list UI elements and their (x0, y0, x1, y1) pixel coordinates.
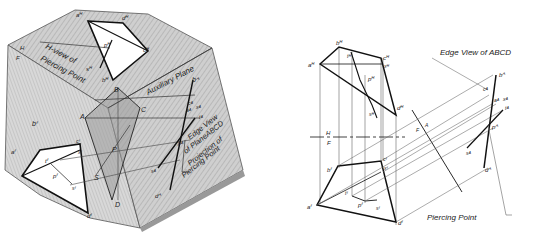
label-cA: cᴬ (188, 100, 194, 106)
label-sA: sᴬ (466, 150, 472, 156)
label-dA: dᴬ (485, 166, 491, 173)
label-dF: dᶠ (87, 213, 92, 219)
label-tA: tᴬ (199, 114, 203, 120)
label-xH: xᴴ (383, 63, 390, 69)
label-sH: sᴴ (369, 111, 375, 117)
label-f-fold: F (327, 140, 331, 146)
label-cA: cᴬ (483, 86, 489, 92)
label-aF: aᶠ (307, 204, 312, 210)
label-P: P (112, 146, 117, 153)
label-sF: sᶠ (376, 205, 381, 211)
label-pA: pᴬ (177, 140, 184, 146)
label-aH: aᴴ (308, 62, 315, 68)
label-xA: xᴬ (502, 96, 509, 102)
label-cF: cᶠ (383, 156, 388, 162)
label-dF: dᶠ (398, 220, 403, 226)
label-pF: pᶠ (52, 173, 58, 179)
label-sA: sᴬ (151, 168, 157, 174)
label-tA: tᴬ (505, 105, 509, 111)
label-tF: tᶠ (345, 190, 348, 196)
label-bF: bᶠ (327, 167, 332, 173)
label-bA: bᴬ (192, 76, 200, 83)
label-pA: pᴬ (491, 123, 498, 130)
label-xA: xᴬ (195, 104, 202, 110)
label-xF: xᶠ (383, 165, 389, 171)
label-S: S (94, 174, 99, 181)
label-dH: dᴴ (397, 105, 404, 111)
label-aA: aᴬ (186, 107, 192, 113)
label-tH: tᴴ (347, 53, 351, 59)
label-fold-f: F (416, 127, 420, 133)
label-f-fold: F (16, 55, 20, 61)
label-fold-a: A (424, 122, 429, 128)
label-A: A (79, 113, 85, 120)
label-pF: pᶠ (357, 202, 363, 208)
label-aF: aᶠ (11, 149, 16, 155)
label-B: B (114, 86, 119, 93)
label-h-fold: H (326, 130, 331, 136)
label-cH: cᴴ (383, 55, 390, 61)
orthographic-views (310, 47, 512, 225)
label-bA: bᴬ (499, 71, 505, 78)
label-pH: pᴴ (103, 42, 111, 48)
label-dA: dᴬ (155, 192, 161, 199)
figure-canvas: H-view of Piercing Point Auxiliary Plane… (0, 0, 541, 233)
label-D: D (115, 201, 120, 208)
label-bH: bᴴ (336, 40, 343, 46)
caption-edge-view: Edge View of ABCD (440, 48, 511, 57)
label-aA: aᴬ (494, 97, 500, 103)
label-pH: pᴴ (367, 76, 375, 82)
caption-piercing-point: Piercing Point (427, 213, 477, 222)
fold-line-fa (412, 110, 462, 192)
label-h-fold: H (20, 45, 25, 51)
